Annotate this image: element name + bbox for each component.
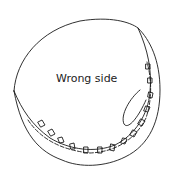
wrong-side-diagram xyxy=(0,0,172,182)
fabric-outline xyxy=(14,19,160,165)
wrong-side-label: Wrong side xyxy=(56,72,117,85)
